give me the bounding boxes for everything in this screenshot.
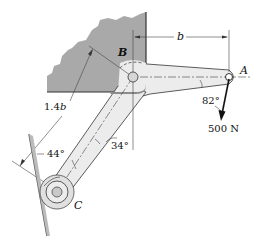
label-dim-1-4b-num: 1.4 xyxy=(44,101,60,112)
label-angle-44: 44° xyxy=(47,149,65,159)
label-angle-34: 34° xyxy=(111,141,129,151)
label-dim-1-4b-var: b xyxy=(60,101,66,112)
label-angle-82: 82° xyxy=(202,96,220,106)
diagram-canvas: B A C b 1.4b 82° 34° 44° 500 N xyxy=(0,0,266,246)
label-dim-1-4b: 1.4b xyxy=(44,102,66,112)
label-dim-b: b xyxy=(177,31,184,42)
label-point-b: B xyxy=(118,47,127,58)
label-point-a: A xyxy=(240,65,248,76)
arm-ba xyxy=(133,63,234,96)
label-force-500n: 500 N xyxy=(208,124,239,134)
label-point-c: C xyxy=(74,200,82,211)
